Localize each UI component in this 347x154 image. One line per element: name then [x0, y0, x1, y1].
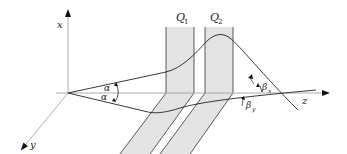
lens-q1-plate	[166, 27, 194, 93]
y-axis-label: y	[29, 139, 36, 150]
beta-y-subscript: y	[251, 105, 256, 113]
lens-q2-subscript: 2	[218, 18, 222, 26]
x-axis-label: x	[57, 19, 63, 30]
alpha-lower-label: α	[101, 92, 107, 102]
lens-q1-subscript: 1	[184, 18, 188, 26]
quadrupole-diagram: x y z Q 1 Q 2 α α β x β y	[0, 0, 347, 154]
beta-x-marker	[248, 74, 262, 92]
z-axis-label: z	[301, 95, 308, 106]
y-axis	[22, 93, 68, 149]
beta-x-label: β	[261, 82, 267, 92]
alpha-arc	[112, 82, 118, 102]
beta-y-label: β	[245, 100, 251, 110]
